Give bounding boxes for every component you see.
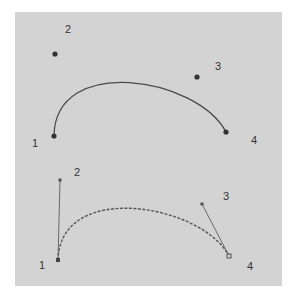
top-label-1: 1 — [32, 138, 38, 149]
top-label-2: 2 — [65, 24, 71, 35]
bottom-label-3: 3 — [223, 191, 229, 202]
bottom-handle-4-3 — [202, 204, 229, 256]
bezier-diagram — [0, 0, 297, 303]
top-label-4: 4 — [251, 135, 257, 146]
bottom-label-4: 4 — [247, 261, 253, 272]
top-point-1[interactable] — [51, 133, 56, 138]
top-label-3: 3 — [215, 61, 221, 72]
top-bezier-curve — [54, 82, 226, 136]
bottom-point-2[interactable] — [58, 178, 62, 182]
bottom-label-2: 2 — [74, 167, 80, 178]
top-point-3[interactable] — [194, 74, 199, 79]
top-point-2[interactable] — [52, 51, 57, 56]
bottom-point-1[interactable] — [56, 258, 60, 262]
bottom-bezier-curve — [58, 208, 229, 260]
bottom-label-1: 1 — [39, 260, 45, 271]
bottom-point-3[interactable] — [200, 202, 204, 206]
bottom-point-4[interactable] — [227, 254, 231, 258]
top-point-4[interactable] — [223, 129, 228, 134]
